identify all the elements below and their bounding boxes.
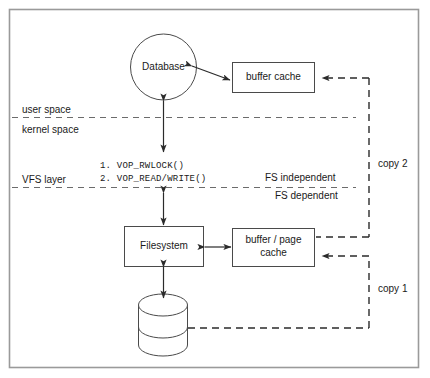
- copy1-label: copy 1: [378, 283, 407, 294]
- buffer-page-cache-label-line1: buffer / page: [233, 234, 314, 246]
- diagram-canvas: Database buffer cache Filesystem buffer …: [0, 0, 430, 378]
- diagram-graphics: [0, 0, 430, 378]
- vfs-layer-label: VFS layer: [22, 174, 66, 185]
- copy2-label: copy 2: [378, 158, 407, 169]
- buffer-cache-label: buffer cache: [233, 71, 314, 83]
- filesystem-label: Filesystem: [125, 240, 203, 252]
- fs-dependent-label: FS dependent: [275, 190, 338, 201]
- vop-line-2: 2. VOP_READ/WRITE(): [100, 174, 206, 184]
- fs-independent-label: FS independent: [265, 172, 336, 183]
- copy2-dashed-path: [316, 78, 369, 237]
- kernel-space-label: kernel space: [22, 124, 79, 135]
- database-label: Database: [131, 61, 196, 73]
- buffer-page-cache-label-line2: cache: [233, 247, 314, 259]
- arrow-database-buffercache: [192, 66, 230, 80]
- user-space-label: user space: [22, 104, 71, 115]
- disk-cylinder: [139, 294, 188, 356]
- vop-line-1: 1. VOP_RWLOCK(): [100, 161, 184, 171]
- figure-frame: [10, 10, 419, 368]
